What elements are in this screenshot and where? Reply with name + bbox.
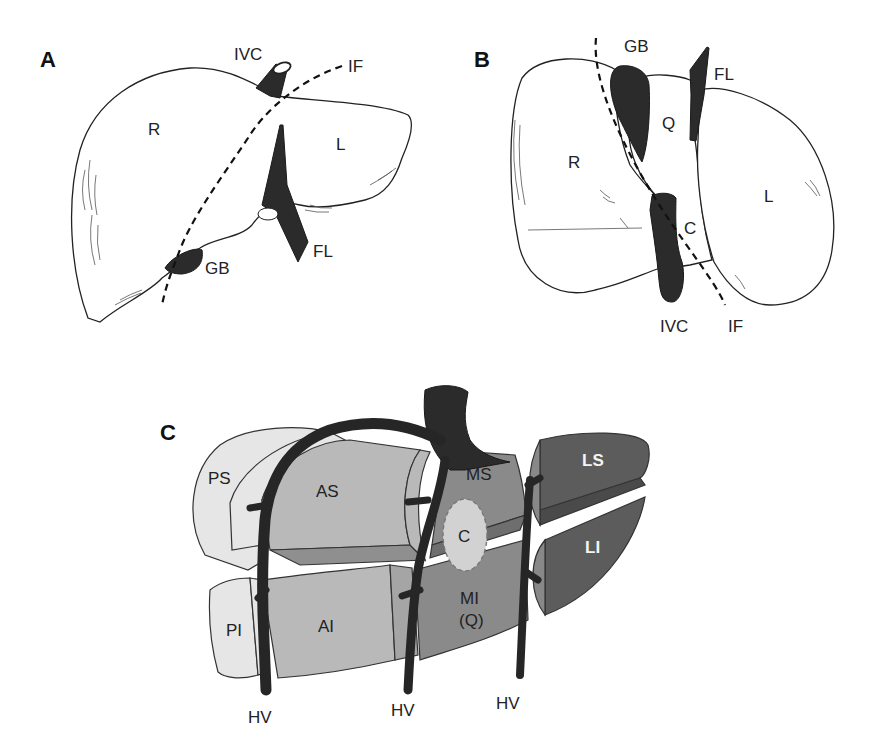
segment-li-label: LI xyxy=(585,538,600,557)
panel-b-letter: B xyxy=(474,47,490,72)
hv-label-right: HV xyxy=(248,708,272,727)
panel-a-fl-label: FL xyxy=(313,242,333,261)
panel-b-q-label: Q xyxy=(662,114,675,133)
panel-b: B GB FL Q R L C IVC IF xyxy=(474,37,834,336)
panel-a: A IVC IF R L GB FL xyxy=(40,45,411,322)
panel-b-left-lobe-label: L xyxy=(764,187,773,206)
panel-a-letter: A xyxy=(40,47,56,72)
segment-ai-label: AI xyxy=(318,617,334,636)
panel-c: C PS AS xyxy=(160,386,649,727)
panel-a-left-lobe-label: L xyxy=(336,135,345,154)
panel-a-ivc-label: IVC xyxy=(234,45,262,64)
panel-b-if-label: IF xyxy=(728,317,743,336)
liver-anatomy-figure: A IVC IF R L GB FL B xyxy=(0,0,876,750)
panel-b-gb-label: GB xyxy=(624,37,649,56)
panel-b-fl-label: FL xyxy=(714,65,734,84)
segment-as-label: AS xyxy=(316,482,339,501)
hv-label-left: HV xyxy=(496,694,520,713)
segment-mi-label: MI xyxy=(460,589,479,608)
panel-c-letter: C xyxy=(160,420,176,445)
segment-mi-q-label: (Q) xyxy=(459,611,484,630)
segment-ls-label: LS xyxy=(582,451,604,470)
panel-a-liver-outline xyxy=(72,68,412,322)
segment-caudate-label: C xyxy=(458,527,470,546)
segment-pi-label: PI xyxy=(226,621,242,640)
segment-ms-label: MS xyxy=(466,465,492,484)
panel-b-right-lobe-label: R xyxy=(568,153,580,172)
panel-a-right-lobe-label: R xyxy=(148,120,160,139)
panel-a-if-label: IF xyxy=(348,57,363,76)
panel-b-c-label: C xyxy=(684,219,696,238)
panel-a-round-structure xyxy=(258,208,278,220)
panel-b-ivc-label: IVC xyxy=(660,317,688,336)
segment-ps-label: PS xyxy=(208,469,231,488)
panel-a-gb-label: GB xyxy=(205,259,230,278)
hv-label-middle: HV xyxy=(391,701,415,720)
